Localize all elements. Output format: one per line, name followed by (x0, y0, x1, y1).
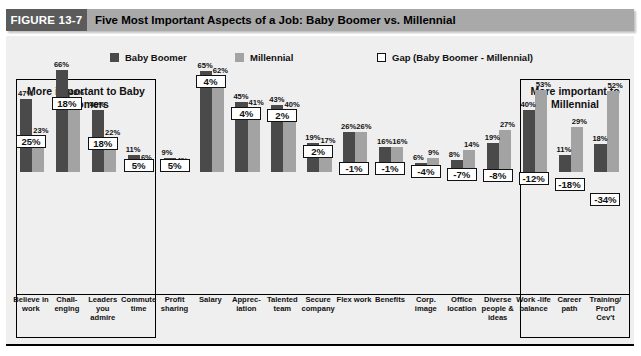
category-label: Work -​life balance (516, 294, 552, 338)
bar-value-label-millennial: 16% (392, 137, 407, 146)
bar-value-label-baby-boomer: 26% (341, 122, 356, 131)
bar-millennial (535, 90, 547, 172)
bar-baby-boomer (523, 110, 535, 172)
bar-value-label-baby-boomer: 43% (269, 95, 284, 104)
category-label: Commute time (121, 294, 157, 338)
gap-value-box: 18% (88, 137, 118, 150)
bar-baby-boomer (487, 143, 499, 172)
bar-value-label-millennial: 22% (105, 128, 120, 137)
bar-value-label-baby-boomer: 40% (90, 100, 105, 109)
chart-plot-area: Baby Boomer Millennial Gap (Baby Boomer … (6, 36, 634, 346)
bar-value-label-millennial: 40% (284, 100, 299, 109)
figure-title: Five Most Important Aspects of a Job: Ba… (95, 9, 630, 31)
gap-value-box: -18% (555, 178, 585, 191)
bar-value-label-baby-boomer: 16% (377, 137, 392, 146)
gap-value-box: -34% (590, 193, 620, 206)
bar-group: 66%48%18% (56, 36, 80, 258)
bar-group: 40%22%18% (92, 36, 116, 258)
category-label: Flex work (336, 294, 372, 338)
category-label: Apprec-​iation (228, 294, 264, 338)
bar-value-label-millennial: 29% (572, 117, 587, 126)
bar-value-label-millennial: 23% (33, 126, 48, 135)
bar-value-label-baby-boomer: 19% (485, 133, 500, 142)
bar-baby-boomer (594, 144, 606, 172)
gap-value-box: 4% (196, 75, 226, 88)
gap-value-box: 25% (16, 135, 46, 148)
bar-group: 18%52%-34% (594, 36, 618, 258)
bar-value-label-baby-boomer: 9% (162, 148, 173, 157)
bar-value-label-millennial: 14% (464, 140, 479, 149)
bar-value-label-millennial: 9% (428, 148, 439, 157)
bar-value-label-baby-boomer: 8% (449, 150, 460, 159)
gap-value-box: 5% (160, 159, 190, 172)
category-label: Profit sharing (157, 294, 193, 338)
bar-group: 45%41%4% (235, 36, 259, 258)
gap-value-box: 5% (124, 159, 154, 172)
bar-value-label-baby-boomer: 11% (557, 145, 572, 154)
bar-group: 26%26%-1% (343, 36, 367, 258)
bar-value-label-baby-boomer: 18% (592, 134, 607, 143)
gap-value-box: -1% (375, 162, 405, 175)
category-label: Chall-​enging (49, 294, 85, 338)
bar-millennial (212, 76, 224, 172)
bar-value-label-baby-boomer: 66% (54, 60, 69, 69)
category-label: Diverse people & ideas (480, 294, 516, 338)
gap-value-box: -4% (411, 165, 441, 178)
category-label: Secure company (300, 294, 336, 338)
bar-group: 8%14%-7% (451, 36, 475, 258)
category-label: Benefits (372, 294, 408, 338)
gap-value-box: 2% (267, 109, 297, 122)
figure-number-tab: FIGURE 13-7 (6, 9, 87, 31)
bar-value-label-millennial: 41% (249, 98, 264, 107)
bar-group: 19%27%-8% (487, 36, 511, 258)
bar-group: 9%4%5% (164, 36, 188, 258)
category-label: Training/ Prof'l Cev't (587, 294, 623, 338)
bar-baby-boomer (559, 155, 571, 172)
bar-group: 11%29%-18% (559, 36, 583, 258)
bar-group: 47%23%25% (20, 36, 44, 258)
gap-value-box: -7% (447, 168, 477, 181)
gap-value-box: 4% (231, 107, 261, 120)
category-label-strip: Believe in workChall-​engingLeaders you … (16, 294, 630, 338)
gap-value-box: -12% (519, 172, 549, 185)
bar-millennial (607, 91, 619, 172)
bar-value-label-millennial: 17% (320, 136, 335, 145)
bar-group: 43%40%2% (271, 36, 295, 258)
figure-container: FIGURE 13-7 Five Most Important Aspects … (0, 0, 641, 356)
bar-millennial (571, 127, 583, 172)
bar-group: 40%53%-12% (523, 36, 547, 258)
bar-value-label-baby-boomer: 19% (305, 133, 320, 142)
bar-millennial (499, 130, 511, 172)
category-label: Career path (552, 294, 588, 338)
category-label: Leaders you admire (85, 294, 121, 338)
category-label: Salary (193, 294, 229, 338)
category-label: Office location (444, 294, 480, 338)
bar-value-label-millennial: 26% (356, 122, 371, 131)
bar-value-label-baby-boomer: 40% (521, 100, 536, 109)
figure-header-bar: FIGURE 13-7 Five Most Important Aspects … (6, 9, 634, 31)
bar-group: 65%62%4% (200, 36, 224, 258)
gap-value-box: 18% (52, 97, 82, 110)
bar-value-label-millennial: 62% (213, 66, 228, 75)
category-label: Believe in work (13, 294, 49, 338)
bar-group: 6%9%-4% (415, 36, 439, 258)
category-label: Corp. image (408, 294, 444, 338)
bar-group: 19%17%2% (307, 36, 331, 258)
bar-value-label-baby-boomer: 47% (18, 89, 33, 98)
bar-value-label-baby-boomer: 11% (126, 145, 141, 154)
bar-value-label-baby-boomer: 65% (198, 61, 213, 70)
bar-value-label-millennial: 53% (536, 80, 551, 89)
gap-value-box: -8% (483, 169, 513, 182)
bar-value-label-millennial: 52% (608, 81, 623, 90)
gap-value-box: -1% (339, 162, 369, 175)
bar-group: 16%16%-1% (379, 36, 403, 258)
bar-value-label-millennial: 27% (500, 120, 515, 129)
bar-value-label-baby-boomer: 45% (233, 92, 248, 101)
bar-baby-boomer (56, 70, 68, 172)
bar-value-label-baby-boomer: 6% (413, 153, 424, 162)
bar-value-label-millennial: 48% (69, 88, 84, 97)
bar-group: 11%6%5% (128, 36, 152, 258)
category-label: Talented team (264, 294, 300, 338)
gap-value-box: 2% (303, 145, 333, 158)
